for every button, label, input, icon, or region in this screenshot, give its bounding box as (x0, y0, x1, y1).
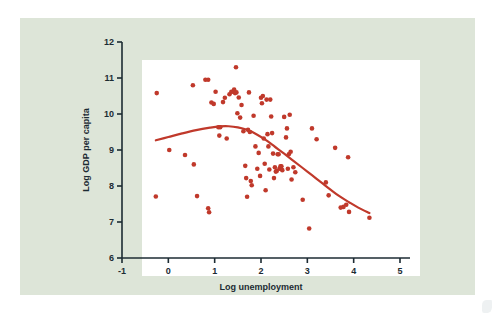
y-tick-label: 11 (96, 73, 114, 83)
data-point (154, 91, 159, 96)
data-point (288, 150, 293, 155)
x-tick-label: 5 (397, 266, 402, 276)
data-point (183, 153, 188, 158)
x-tick-label: 2 (258, 266, 263, 276)
corner-artifact (482, 300, 492, 313)
data-point (266, 144, 271, 149)
y-tick-label: 12 (96, 37, 114, 47)
data-point (244, 176, 249, 181)
data-point (235, 111, 240, 116)
data-point (238, 115, 243, 120)
data-point (211, 102, 216, 107)
data-point (280, 168, 285, 173)
figure-page: 6789101112-1012345 Log unemployment Log … (0, 0, 498, 318)
x-tick-label: 3 (305, 266, 310, 276)
data-point (291, 165, 296, 170)
data-point (248, 130, 253, 135)
data-point (261, 136, 266, 141)
data-point (255, 166, 260, 171)
data-point (241, 129, 246, 134)
data-point (167, 148, 172, 153)
data-point (261, 94, 266, 99)
data-point (267, 167, 272, 172)
scatter-chart (0, 0, 498, 318)
data-point (293, 170, 298, 175)
data-point (249, 183, 254, 188)
data-point (206, 206, 211, 211)
data-point (206, 78, 211, 83)
data-point (347, 210, 352, 215)
y-tick-label: 6 (96, 253, 114, 263)
data-point (243, 164, 248, 169)
data-point (213, 89, 218, 94)
data-point (268, 97, 273, 102)
y-tick-label: 10 (96, 109, 114, 119)
data-point (218, 125, 223, 130)
data-point (286, 166, 291, 171)
data-point (236, 95, 241, 100)
data-point (270, 131, 275, 136)
y-tick-label: 8 (96, 181, 114, 191)
data-point (258, 174, 263, 179)
x-tick-label: 4 (351, 266, 356, 276)
data-point (346, 155, 351, 160)
data-point (272, 176, 277, 181)
data-point (285, 126, 290, 131)
data-point (256, 151, 261, 156)
data-point (276, 152, 281, 157)
data-point (234, 90, 239, 95)
data-point (314, 137, 319, 142)
data-point (245, 195, 250, 200)
scatter-points (154, 65, 372, 231)
y-tick-label: 7 (96, 217, 114, 227)
data-point (265, 132, 270, 137)
x-tick-label: 1 (212, 266, 217, 276)
data-point (284, 135, 289, 140)
data-point (249, 179, 254, 184)
data-point (324, 180, 329, 185)
data-point (367, 215, 372, 220)
data-point (154, 194, 159, 199)
data-point (344, 202, 349, 207)
data-point (217, 133, 222, 138)
data-point (282, 115, 287, 120)
data-point (195, 194, 200, 199)
data-point (310, 126, 315, 131)
data-point (289, 177, 294, 182)
data-point (269, 114, 274, 119)
data-point (207, 210, 212, 215)
data-point (287, 112, 292, 117)
data-point (251, 114, 256, 119)
data-point (253, 144, 258, 149)
data-point (191, 83, 196, 88)
data-point (271, 151, 276, 156)
data-point (221, 100, 226, 105)
axis-layer (117, 42, 410, 263)
x-tick-label: -1 (118, 266, 126, 276)
x-axis-title: Log unemployment (220, 282, 303, 292)
data-point (263, 188, 268, 193)
data-point (239, 103, 244, 108)
y-tick-label: 9 (96, 145, 114, 155)
data-point (326, 193, 331, 198)
data-point (247, 90, 252, 95)
data-point (262, 161, 267, 166)
data-point (260, 101, 265, 106)
data-point (192, 162, 197, 167)
data-point (300, 197, 305, 202)
data-point (223, 96, 228, 101)
x-tick-label: 0 (166, 266, 171, 276)
data-point (224, 136, 229, 141)
data-point (307, 226, 312, 231)
data-point (279, 164, 284, 169)
y-axis-title: Log GDP per capita (81, 108, 91, 191)
data-point (234, 65, 239, 70)
data-point (333, 146, 338, 151)
